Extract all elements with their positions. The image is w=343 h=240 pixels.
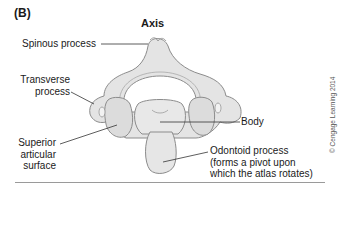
leader-superior-articular [60, 125, 117, 144]
leader-transverse [71, 92, 94, 104]
label-transverse-process: Transverse process [14, 74, 70, 97]
right-articular-surface [189, 97, 215, 135]
vertebral-body [135, 100, 186, 135]
odontoid-process [146, 132, 177, 173]
copyright-credit: © Cengage Learning 2014 [329, 77, 336, 153]
left-articular-surface [105, 97, 133, 137]
bottom-divider [15, 182, 325, 183]
label-spinous-process: Spinous process [22, 38, 96, 50]
label-superior-articular-surface: Superior articular surface [10, 137, 56, 172]
label-body: Body [241, 116, 264, 128]
label-odontoid-process: Odontoid process (forms a pivot upon whi… [210, 145, 313, 180]
